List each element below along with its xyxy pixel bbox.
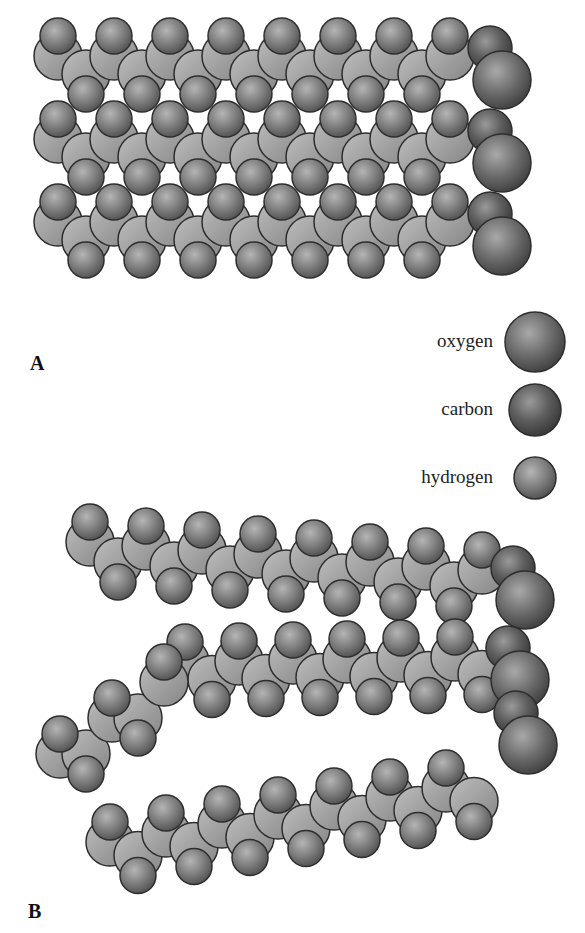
oxygen-atom: [473, 134, 531, 192]
legend-hydrogen-icon: [514, 457, 556, 499]
hydrogen-atom: [248, 681, 284, 717]
hydrogen-atom: [264, 101, 300, 137]
hydrogen-atom: [208, 184, 244, 220]
oxygen-atom: [496, 571, 554, 629]
legend-label-carbon: carbon: [441, 398, 493, 420]
oxygen-atom: [499, 716, 557, 774]
hydrogen-atom: [372, 759, 408, 795]
hydrogen-atom: [302, 680, 338, 716]
hydrogen-atom: [68, 242, 104, 278]
hydrogen-atom: [176, 849, 212, 885]
hydrogen-atom: [128, 508, 164, 544]
hydrogen-atom: [292, 242, 328, 278]
hydrogen-atom: [408, 528, 444, 564]
hydrogen-atom: [68, 76, 104, 112]
molecule-illustration: [0, 0, 585, 933]
hydrogen-atom: [320, 184, 356, 220]
hydrogen-atom: [260, 777, 296, 813]
legend-carbon-icon: [509, 384, 561, 436]
hydrogen-atom: [212, 572, 248, 608]
hydrogen-atom: [92, 804, 128, 840]
hydrogen-atom: [264, 184, 300, 220]
legend-oxygen-icon: [505, 312, 565, 372]
hydrogen-atom: [329, 621, 365, 657]
hydrogen-atom: [404, 242, 440, 278]
hydrogen-atom: [320, 18, 356, 54]
hydrogen-atom: [208, 101, 244, 137]
hydrogen-atom: [152, 101, 188, 137]
legend-label-oxygen: oxygen: [437, 330, 493, 352]
hydrogen-atom: [96, 184, 132, 220]
hydrogen-atom: [184, 512, 220, 548]
hydrogen-atom: [376, 184, 412, 220]
hydrogen-atom: [292, 76, 328, 112]
hydrogen-atom: [40, 18, 76, 54]
hydrogen-atom: [352, 524, 388, 560]
hydrogen-atom: [96, 18, 132, 54]
hydrogen-atom: [383, 620, 419, 656]
hydrogen-atom: [152, 18, 188, 54]
hydrogen-atom: [100, 564, 136, 600]
hydrogen-atom: [296, 520, 332, 556]
legend-label-hydrogen: hydrogen: [421, 466, 493, 488]
hydrogen-atom: [348, 159, 384, 195]
hydrogen-atom: [180, 242, 216, 278]
hydrogen-atom: [120, 858, 156, 894]
hydrogen-atom: [208, 18, 244, 54]
hydrogen-atom: [288, 831, 324, 867]
hydrogen-atom: [404, 76, 440, 112]
hydrogen-atom: [456, 804, 492, 840]
hydrogen-atom: [292, 159, 328, 195]
oxygen-atom: [473, 51, 531, 109]
hydrogen-atom: [380, 584, 416, 620]
hydrogen-atom: [316, 768, 352, 804]
panel-label-a: A: [30, 352, 44, 375]
hydrogen-atom: [156, 568, 192, 604]
hydrogen-atom: [404, 159, 440, 195]
fatty-acid-chain: [36, 619, 549, 792]
hydrogen-atom: [348, 76, 384, 112]
hydrogen-atom: [96, 101, 132, 137]
hydrogen-atom: [120, 720, 156, 756]
hydrogen-atom: [275, 622, 311, 658]
hydrogen-atom: [236, 76, 272, 112]
hydrogen-atom: [236, 159, 272, 195]
fatty-acid-chain: [34, 101, 531, 195]
hydrogen-atom: [180, 76, 216, 112]
hydrogen-atom: [432, 184, 468, 220]
hydrogen-atom: [68, 756, 104, 792]
hydrogen-atom: [432, 101, 468, 137]
hydrogen-atom: [194, 682, 230, 718]
hydrogen-atom: [94, 680, 130, 716]
hydrogen-atom: [348, 242, 384, 278]
hydrogen-atom: [204, 786, 240, 822]
fatty-acid-diagram: A B oxygen carbon hydrogen: [0, 0, 585, 933]
hydrogen-atom: [376, 18, 412, 54]
hydrogen-atom: [437, 619, 473, 655]
hydrogen-atom: [146, 644, 182, 680]
legend-atoms: [505, 312, 565, 499]
hydrogen-atom: [236, 242, 272, 278]
hydrogen-atom: [268, 576, 304, 612]
hydrogen-atom: [320, 101, 356, 137]
hydrogen-atom: [400, 813, 436, 849]
hydrogen-atom: [40, 101, 76, 137]
hydrogen-atom: [264, 18, 300, 54]
hydrogen-atom: [124, 159, 160, 195]
hydrogen-atom: [42, 716, 78, 752]
fatty-acid-chain: [34, 184, 531, 278]
hydrogen-atom: [410, 678, 446, 714]
hydrogen-atom: [68, 159, 104, 195]
hydrogen-atom: [148, 795, 184, 831]
hydrogen-atom: [180, 159, 216, 195]
oxygen-atom: [473, 217, 531, 275]
hydrogen-atom: [72, 504, 108, 540]
hydrogen-atom: [428, 750, 464, 786]
hydrogen-atom: [232, 840, 268, 876]
hydrogen-atom: [152, 184, 188, 220]
hydrogen-atom: [40, 184, 76, 220]
fatty-acid-chain: [34, 18, 531, 112]
hydrogen-atom: [124, 76, 160, 112]
hydrogen-atom: [376, 101, 412, 137]
hydrogen-atom: [356, 679, 392, 715]
